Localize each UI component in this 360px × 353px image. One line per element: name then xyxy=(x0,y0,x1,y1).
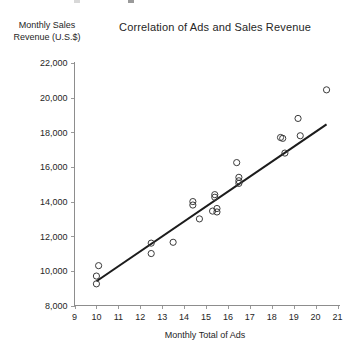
scatter-points xyxy=(93,87,329,287)
x-tick-label: 17 xyxy=(245,312,255,322)
x-tick-label: 20 xyxy=(311,312,321,322)
x-tick-label: 10 xyxy=(91,312,101,322)
x-tick-label: 14 xyxy=(179,312,189,322)
x-tick-label: 13 xyxy=(157,312,167,322)
data-point xyxy=(323,87,329,93)
plot-area: 8,00010,00012,00014,00016,00018,00020,00… xyxy=(0,0,360,353)
x-tick-label: 15 xyxy=(201,312,211,322)
data-point xyxy=(297,133,303,139)
y-axis-ticks: 8,00010,00012,00014,00016,00018,00020,00… xyxy=(40,58,75,310)
x-axis-title: Monthly Total of Ads xyxy=(120,330,290,340)
y-tick-label: 20,000 xyxy=(40,93,68,103)
y-tick-label: 22,000 xyxy=(40,58,68,68)
data-point xyxy=(93,273,99,279)
x-tick-label: 21 xyxy=(332,312,342,322)
trend-line xyxy=(96,124,326,281)
y-tick-label: 18,000 xyxy=(40,128,68,138)
y-tick-label: 12,000 xyxy=(40,232,68,242)
y-tick-label: 10,000 xyxy=(40,266,68,276)
data-point xyxy=(170,239,176,245)
y-tick-label: 8,000 xyxy=(45,301,68,311)
y-tick-label: 16,000 xyxy=(40,162,68,172)
data-point xyxy=(196,216,202,222)
x-tick-label: 18 xyxy=(267,312,277,322)
x-tick-label: 12 xyxy=(135,312,145,322)
data-point xyxy=(96,263,102,269)
data-point xyxy=(280,135,286,141)
x-tick-label: 16 xyxy=(223,312,233,322)
x-tick-label: 19 xyxy=(289,312,299,322)
y-tick-label: 14,000 xyxy=(40,197,68,207)
chart-figure: Monthly Sales Revenue (U.S.$) Correlatio… xyxy=(0,0,360,353)
x-tick-label: 11 xyxy=(114,312,123,322)
data-point xyxy=(93,281,99,287)
data-point xyxy=(234,159,240,165)
x-tick-label: 9 xyxy=(72,312,77,322)
data-point xyxy=(148,250,154,256)
data-point xyxy=(295,115,301,121)
x-axis-ticks: 9101112131415161718192021 xyxy=(72,306,343,322)
